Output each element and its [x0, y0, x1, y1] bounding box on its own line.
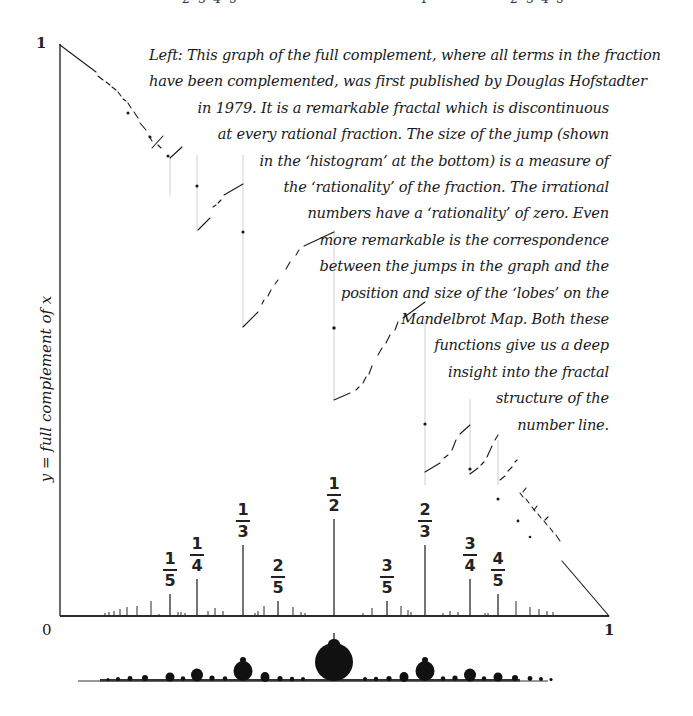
label-3-4: 34	[459, 535, 481, 574]
label-1-5: 15	[159, 550, 181, 589]
mandelbrot-strip	[78, 633, 553, 682]
caption-line: more remarkable is the correspondence	[149, 227, 609, 253]
y-axis-top-label: 1	[36, 34, 46, 52]
caption-line: between the jumps in the graph and the	[149, 253, 609, 279]
label-1-2: 12	[323, 475, 345, 514]
caption-text: Left: This graph of the full complement,…	[149, 42, 609, 438]
label-1-4: 14	[186, 535, 208, 574]
caption-line: Mandelbrot Map. Both these	[149, 306, 609, 332]
caption-line: number line.	[149, 412, 609, 438]
label-3-5: 35	[376, 557, 398, 596]
caption-line: have been complemented, was first publis…	[149, 68, 609, 94]
x-axis-right-label: 1	[604, 621, 614, 639]
minor-histogram-bars	[105, 601, 553, 616]
x-axis-left-label: 0	[42, 621, 52, 639]
caption-line: insight into the fractal	[149, 359, 609, 385]
rationality-histogram	[170, 519, 498, 616]
label-4-5: 45	[487, 550, 509, 589]
caption-line: functions give us a deep	[149, 332, 609, 358]
caption-line: at every rational fraction. The size of …	[149, 121, 609, 147]
caption-line: in 1979. It is a remarkable fractal whic…	[149, 95, 609, 121]
caption-line: position and size of the ‘lobes’ on the	[149, 280, 609, 306]
label-2-3: 23	[414, 501, 436, 540]
caption-line: the ‘rationality’ of the fraction. The i…	[149, 174, 609, 200]
caption-line: in the ‘histogram’ at the bottom) is a m…	[149, 148, 609, 174]
caption-line: numbers have a ‘rationality’ of zero. Ev…	[149, 200, 609, 226]
y-axis-label: y = full complement of x	[37, 289, 59, 489]
caption-line: structure of the	[149, 385, 609, 411]
label-1-3: 13	[232, 501, 254, 540]
caption-line: Left: This graph of the full complement,…	[149, 42, 609, 68]
label-2-5: 25	[267, 557, 289, 596]
